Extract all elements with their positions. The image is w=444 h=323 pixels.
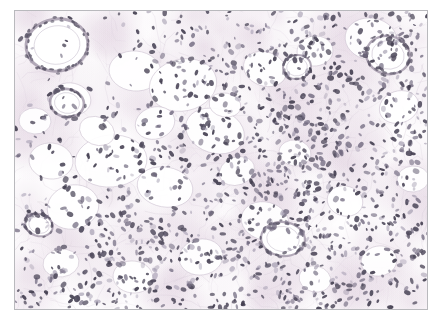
micrograph-frame <box>14 10 428 310</box>
histology-image <box>15 11 427 309</box>
micrograph-page: histology-micrograph <box>0 0 444 323</box>
